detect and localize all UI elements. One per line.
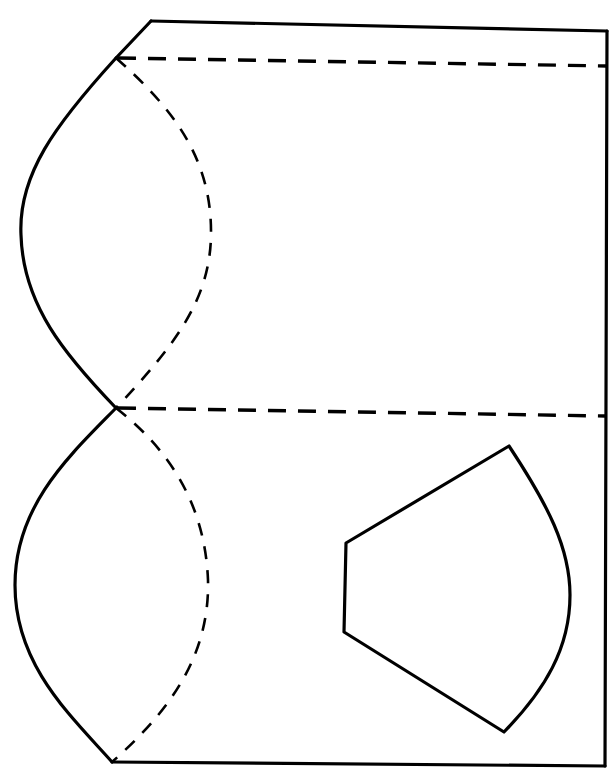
upper-horizontal-fold-line	[118, 58, 607, 66]
paper-net-figure	[0, 0, 613, 777]
right-edge	[605, 31, 607, 766]
fan-shaped-cutout	[344, 446, 570, 732]
upper-lobe-edge	[21, 58, 116, 408]
top-edge	[151, 21, 607, 31]
fold-lines	[112, 58, 607, 762]
bottom-edge	[112, 762, 605, 766]
diagram-canvas	[0, 0, 613, 777]
lower-lobe-edge	[15, 408, 116, 762]
outline	[15, 21, 607, 766]
lower-curved-fold-line	[112, 408, 208, 762]
top-slant-edge	[116, 21, 151, 58]
lower-horizontal-fold-line	[118, 408, 605, 416]
upper-curved-fold-line	[116, 58, 211, 408]
